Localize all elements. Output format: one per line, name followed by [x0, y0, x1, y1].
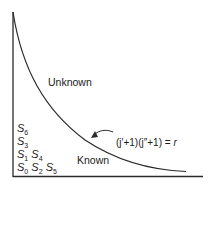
state-s2: S2 — [31, 161, 42, 173]
state-s3: S3 — [17, 135, 28, 147]
state-row-4: S0 S2 S5 — [17, 161, 57, 178]
state-s5: S5 — [46, 161, 57, 173]
equation-label: (j′+1)(j″+1) = r — [116, 137, 177, 148]
known-region-label: Known — [77, 154, 109, 166]
equation-rhs: r — [173, 137, 176, 148]
equation-equals: = — [165, 137, 171, 148]
state-s0: S0 — [17, 161, 28, 173]
state-s4: S4 — [31, 148, 42, 160]
unknown-region-label: Unknown — [48, 76, 92, 88]
state-s6: S6 — [17, 122, 28, 134]
arrow-shaft — [94, 130, 113, 135]
equation-lhs: (j′+1)(j″+1) — [116, 137, 162, 148]
state-s1: S1 — [17, 148, 28, 160]
